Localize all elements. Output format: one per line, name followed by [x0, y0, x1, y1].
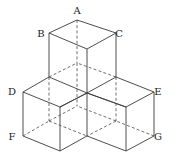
hidden-edge	[49, 63, 77, 77]
hidden-edge	[49, 106, 77, 121]
top-cube-top-face	[49, 20, 116, 49]
left-cube	[23, 77, 87, 151]
right-cube-top-face	[87, 77, 154, 107]
right-cube-hidden-bottom	[116, 121, 154, 136]
label-a: A	[72, 5, 81, 16]
label-b: B	[37, 28, 44, 39]
label-f: F	[9, 131, 16, 142]
left-cube-hidden-bottom	[23, 121, 49, 136]
hidden-edge	[77, 63, 116, 77]
vertex-labels: A B C D E F G	[8, 5, 162, 142]
hidden-edge	[77, 106, 116, 121]
left-cube-bottom-edges	[23, 136, 87, 151]
right-cube	[77, 77, 154, 151]
label-g: G	[154, 131, 162, 142]
hidden-edge	[87, 121, 116, 136]
label-c: C	[115, 28, 123, 39]
label-d: D	[8, 86, 16, 97]
hidden-edge	[49, 121, 87, 136]
center-edge	[60, 93, 87, 107]
center-edge	[87, 93, 126, 107]
right-cube-bottom-edges	[87, 136, 154, 151]
label-e: E	[154, 86, 161, 97]
three-cubes-figure: A B C D E F G	[0, 0, 179, 160]
